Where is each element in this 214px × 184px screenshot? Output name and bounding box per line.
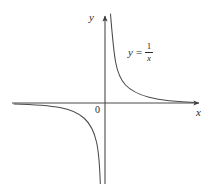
math-figure: y x 0 y = 1 x xyxy=(0,0,214,184)
origin-label: 0 xyxy=(95,105,100,115)
hyperbola-plot xyxy=(0,0,214,184)
curve-branch-quadrant-1 xyxy=(111,14,197,102)
x-axis-label: x xyxy=(196,107,201,118)
fraction-numerator: 1 xyxy=(146,42,153,52)
equation-label: y = 1 x xyxy=(128,42,153,63)
equation-equals-sign: = xyxy=(136,47,142,58)
y-axis-label: y xyxy=(89,12,94,23)
curve-branch-quadrant-3 xyxy=(14,104,100,184)
equation-lhs: y xyxy=(128,47,133,58)
fraction-denominator: x xyxy=(146,53,152,63)
equation-fraction: 1 x xyxy=(145,42,153,63)
